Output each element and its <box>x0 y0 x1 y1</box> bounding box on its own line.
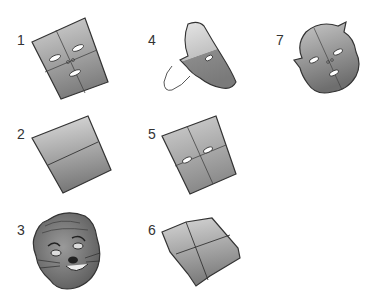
step-6-paper-folded-quarters <box>160 210 245 290</box>
step-4-number: 4 <box>148 32 156 48</box>
step-6-number: 6 <box>148 222 156 238</box>
step-5-unfolded-eye-slits <box>160 112 245 197</box>
step-2-paper-folded-half <box>30 114 115 194</box>
step-7-number: 7 <box>276 32 284 48</box>
step-4-cutting-half-face <box>160 20 245 100</box>
step-1-number: 1 <box>17 32 25 48</box>
step-1-folded-face-paper <box>30 15 115 100</box>
step-5-number: 5 <box>148 126 156 142</box>
step-2-number: 2 <box>17 126 25 142</box>
step-7-cutout-face <box>292 18 368 96</box>
step-3-number: 3 <box>17 222 25 238</box>
step-3-finished-mask <box>30 208 105 293</box>
